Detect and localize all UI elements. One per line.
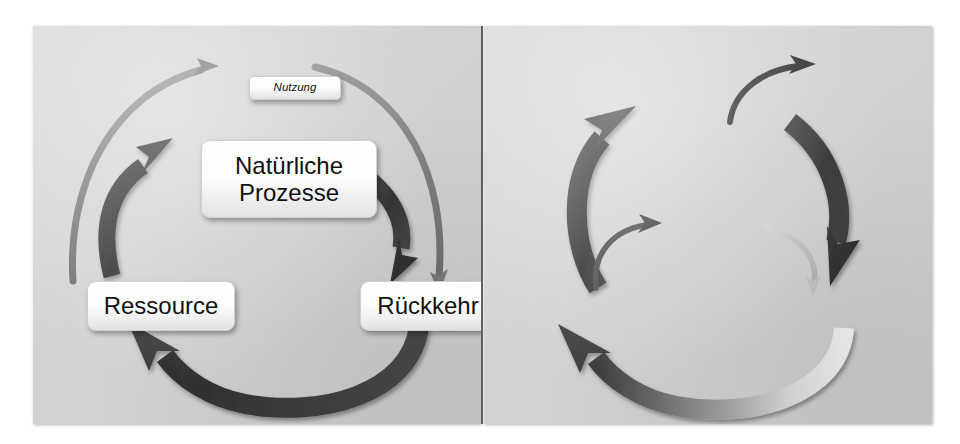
node-label: NatürlicheProzesse [235,152,343,207]
panel-left-intact-cycle: Nutzung NatürlicheProzesse Ressource Rüc… [33,26,481,424]
arrow-nutzung-to-dump [730,55,816,122]
node-ressource-left[interactable]: Ressource [87,281,235,331]
arrow-bottom-return [558,324,844,410]
node-label: Nutzung [274,81,317,94]
arrow-inner-right-down [766,227,821,296]
node-label: Ressource [104,292,219,319]
arrow-inner-left-up [596,214,662,288]
node-rueckkehr-left[interactable]: Rückkehr [360,281,481,331]
diagram-stage: Nutzung NatürlicheProzesse Ressource Rüc… [0,0,960,444]
panel-right-degraded-cycle: Dump Nutzung Natürliche Prozesse Ressour… [484,26,932,424]
node-label: Rückkehr [377,292,478,319]
arrow-outer-right-down [790,122,860,286]
arrow-inner-left-up [107,138,173,276]
node-natuerliche-prozesse-left[interactable]: NatürlicheProzesse [201,140,377,218]
arrow-outer-left-up [577,106,636,288]
node-nutzung-left[interactable]: Nutzung [249,76,341,100]
right-panel-arrows [484,26,932,424]
panel-divider [481,26,483,424]
arrow-bottom-return [128,322,419,408]
